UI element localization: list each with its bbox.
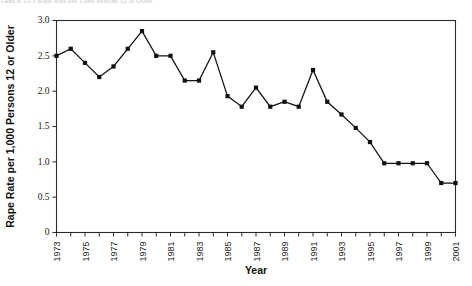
y-axis-tick-label: 0 <box>45 227 50 237</box>
data-point-marker <box>69 47 73 51</box>
y-axis-tick-label: 1.0 <box>38 157 50 167</box>
x-axis-tick-label: 2001 <box>451 242 461 262</box>
data-point-marker <box>168 54 172 58</box>
data-point-marker <box>254 86 258 90</box>
data-point-marker <box>439 181 443 185</box>
y-axis-tick-label: 2.5 <box>38 51 50 61</box>
data-point-marker <box>311 68 315 72</box>
x-axis-tick-label: 1977 <box>109 242 119 262</box>
x-axis-tick-label: 1997 <box>394 242 404 262</box>
x-axis: 1973197519771979198119831985198719891991… <box>52 233 461 262</box>
data-point-marker <box>425 161 429 165</box>
data-point-marker <box>325 100 329 104</box>
data-point-marker <box>83 61 87 65</box>
x-axis-tick-label: 1999 <box>423 242 433 262</box>
y-axis: 00.51.01.52.02.53.0 <box>38 15 57 237</box>
y-axis-title: Rape Rate per 1,000 Persons 12 or Older <box>4 25 16 228</box>
data-markers <box>54 29 457 185</box>
x-axis-tick-label: 1973 <box>52 242 62 262</box>
figure-caption: TABLE 12-1 Rape Rate per 1,000 Persons 1… <box>0 0 472 5</box>
x-axis-tick-label: 1989 <box>280 242 290 262</box>
data-point-marker <box>54 54 58 58</box>
x-axis-tick-label: 1993 <box>337 242 347 262</box>
data-point-marker <box>282 100 286 104</box>
y-axis-tick-label: 1.5 <box>38 121 50 131</box>
x-axis-tick-label: 1985 <box>223 242 233 262</box>
data-point-marker <box>297 105 301 109</box>
data-point-marker <box>382 161 386 165</box>
x-axis-tick-label: 1975 <box>81 242 91 262</box>
data-point-marker <box>211 50 215 54</box>
data-point-marker <box>339 112 343 116</box>
rape-rate-line-chart: 00.51.01.52.02.53.0 19731975197719791981… <box>0 0 472 286</box>
x-axis-tick-label: 1987 <box>252 242 262 262</box>
data-point-marker <box>368 140 372 144</box>
x-axis-tick-label: 1979 <box>138 242 148 262</box>
data-point-marker <box>225 94 229 98</box>
data-point-marker <box>154 54 158 58</box>
data-point-marker <box>140 29 144 33</box>
data-point-marker <box>97 75 101 79</box>
data-point-marker <box>240 105 244 109</box>
data-line-series <box>57 31 456 183</box>
data-point-marker <box>411 161 415 165</box>
plot-frame <box>57 21 456 233</box>
data-point-marker <box>354 126 358 130</box>
y-axis-tick-label: 2.0 <box>38 86 50 96</box>
y-axis-tick-label: 3.0 <box>38 15 50 25</box>
figure-container: TABLE 12-1 Rape Rate per 1,000 Persons 1… <box>0 0 472 286</box>
y-axis-tick-label: 0.5 <box>38 192 50 202</box>
x-axis-tick-label: 1981 <box>166 242 176 262</box>
x-axis-tick-label: 1991 <box>309 242 319 262</box>
x-axis-title: Year <box>245 264 267 276</box>
data-point-marker <box>111 64 115 68</box>
data-point-marker <box>396 161 400 165</box>
data-point-marker <box>126 47 130 51</box>
data-point-marker <box>183 78 187 82</box>
data-point-marker <box>268 105 272 109</box>
data-point-marker <box>197 78 201 82</box>
data-point-marker <box>453 181 457 185</box>
x-axis-tick-label: 1995 <box>366 242 376 262</box>
x-axis-tick-label: 1983 <box>195 242 205 262</box>
